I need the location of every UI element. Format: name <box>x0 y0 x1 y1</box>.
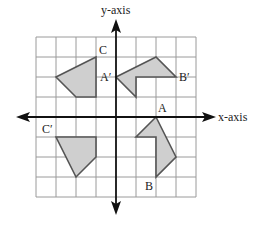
y-axis-label: y-axis <box>101 3 130 18</box>
axis-labels: y-axis x-axis <box>0 0 259 228</box>
x-axis-label: x-axis <box>218 110 247 125</box>
coordinate-plane-diagram: ABA′B′CC′ y-axis x-axis <box>0 0 259 228</box>
